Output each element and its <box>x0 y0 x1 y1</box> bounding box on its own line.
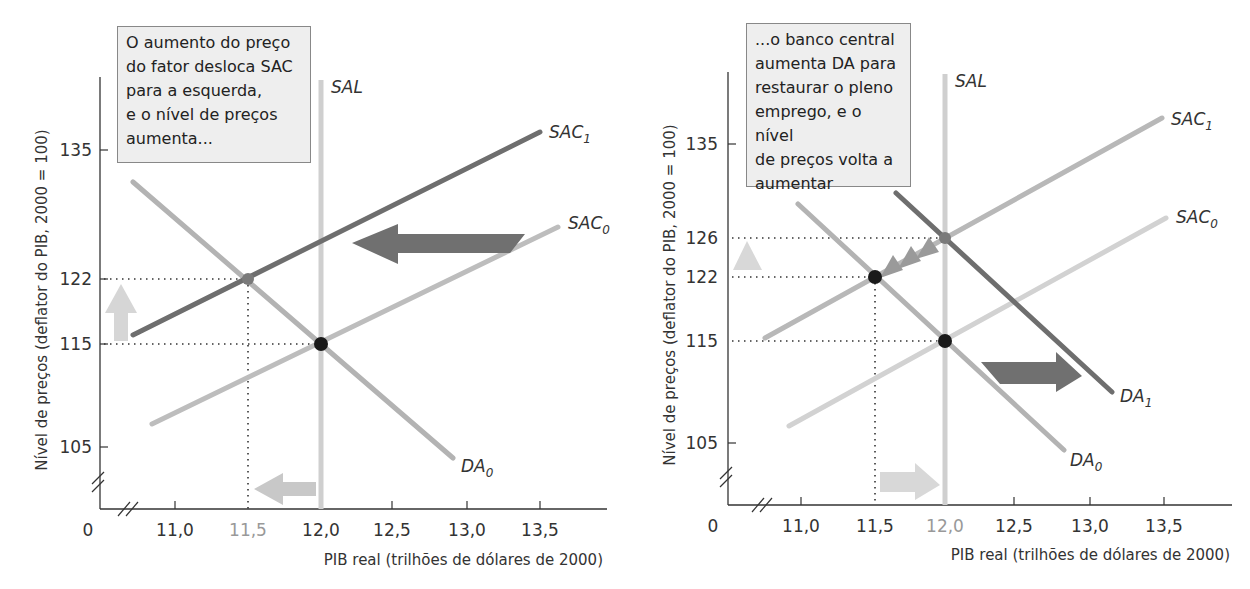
left-x-axis-title: PIB real (trilhões de dólares de 2000) <box>324 551 603 569</box>
left-sac1-label: SAC1 <box>549 122 591 146</box>
left-x-tick-11-0: 11,0 <box>156 520 194 540</box>
left-y-tick-122: 122 <box>60 269 92 289</box>
right-x-tick-0: 0 <box>708 516 719 536</box>
right-da1-label: DA1 <box>1120 386 1152 410</box>
callout-line: para a esquerda, <box>126 79 302 103</box>
callout-line: ...o banco central <box>755 28 902 52</box>
left-y-tick-135: 135 <box>60 140 92 160</box>
callout-line: aumentar <box>755 172 902 196</box>
right-y-tick-115: 115 <box>686 331 718 351</box>
left-output-down-arrow-icon <box>254 473 316 505</box>
right-equilibrium-point-new <box>939 232 951 244</box>
left-equilibrium-point-new <box>242 273 254 285</box>
callout-line: aumenta DA para <box>755 52 902 76</box>
right-x-tick-13-5: 13,5 <box>1145 516 1183 536</box>
right-y-tick-122: 122 <box>686 267 718 287</box>
right-x-tick-12-0: 12,0 <box>926 516 964 536</box>
right-da0-label: DA0 <box>1070 450 1103 474</box>
left-x-tick-11-5: 11,5 <box>229 520 267 540</box>
callout-line: do fator desloca SAC <box>126 55 302 79</box>
left-sal-label: SAL <box>331 77 363 97</box>
right-output-up-arrow-icon <box>880 463 940 500</box>
right-x-tick-11-0: 11,0 <box>782 516 820 536</box>
left-equilibrium-point-initial <box>314 337 328 351</box>
right-x-tick-13-0: 13,0 <box>1071 516 1109 536</box>
left-sac0-curve <box>152 227 558 424</box>
left-da0-label: DA0 <box>461 456 494 480</box>
left-y-tick-105: 105 <box>60 437 92 457</box>
right-x-tick-11-5: 11,5 <box>856 516 894 536</box>
left-y-tick-115: 115 <box>60 334 92 354</box>
right-sac1-label: SAC1 <box>1171 109 1213 133</box>
left-y-axis-break <box>92 472 104 492</box>
left-x-tick-13-5: 13,5 <box>521 520 559 540</box>
right-y-axis-title: Nível de preços (deflator do PIB, 2000 =… <box>661 124 679 465</box>
right-annotation-box: ...o banco central aumenta DA para resta… <box>746 23 911 187</box>
right-guide-lines <box>732 238 945 505</box>
callout-line: e o nível de preços <box>126 103 302 127</box>
left-x-tick-12-0: 12,0 <box>302 520 340 540</box>
right-y-tick-135: 135 <box>686 134 718 154</box>
left-sac0-label: SAC0 <box>568 213 610 237</box>
right-y-tick-126: 126 <box>686 228 718 248</box>
callout-line: O aumento do preço <box>126 31 302 55</box>
left-x-tick-0: 0 <box>83 520 94 540</box>
right-price-up-arrow-icon <box>733 241 762 270</box>
callout-line: emprego, e o nível <box>755 100 902 148</box>
left-y-axis-title: Nível de preços (deflator do PIB, 2000 =… <box>33 129 51 470</box>
left-price-up-arrow-icon <box>105 284 137 341</box>
left-annotation-box: O aumento do preço do fator desloca SAC … <box>117 26 311 163</box>
right-y-tick-105: 105 <box>686 433 718 453</box>
right-equilibrium-point-shock <box>868 270 882 284</box>
right-y-axis-break <box>720 467 732 487</box>
right-adjustment-arrows-icon <box>880 237 939 278</box>
right-sac0-label: SAC0 <box>1176 207 1218 231</box>
callout-line: restaurar o pleno <box>755 76 902 100</box>
right-x-tick-12-5: 12,5 <box>995 516 1033 536</box>
left-x-tick-12-5: 12,5 <box>373 520 411 540</box>
left-x-tick-13-0: 13,0 <box>448 520 486 540</box>
right-equilibrium-point-initial <box>938 334 952 348</box>
left-da0-curve <box>133 182 453 458</box>
callout-line: de preços volta a <box>755 148 902 172</box>
right-sal-label: SAL <box>955 71 987 91</box>
right-x-axis-title: PIB real (trilhões de dólares de 2000) <box>951 546 1230 564</box>
callout-line: aumenta... <box>126 127 302 151</box>
